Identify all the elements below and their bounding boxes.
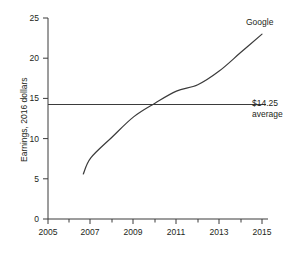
y-tick-label-5: 5 — [24, 175, 39, 184]
y-tick-label-20: 20 — [24, 54, 39, 63]
x-tick-label-2013: 2013 — [210, 228, 229, 237]
x-axis-ticks — [48, 219, 262, 224]
y-tick-label-25: 25 — [24, 14, 39, 23]
x-tick-label-2011: 2011 — [167, 228, 185, 237]
x-tick-label-2015: 2015 — [253, 228, 272, 237]
average-annotation: $14.25 average — [252, 98, 283, 121]
axes — [48, 18, 268, 219]
x-tick-label-2009: 2009 — [124, 228, 143, 237]
series-line-google-smooth — [62, 38, 262, 174]
average-caption-label: average — [252, 109, 283, 120]
chart-plot-area — [0, 0, 300, 254]
x-tick-label-2005: 2005 — [39, 228, 58, 237]
x-tick-label-2007: 2007 — [81, 228, 100, 237]
y-tick-label-0: 0 — [24, 215, 39, 224]
chart-container: 0 5 10 15 20 25 2005 2007 2009 2011 2013… — [0, 0, 300, 254]
y-axis-ticks — [43, 18, 48, 219]
y-axis-title: Earnings, 2016 dollars — [20, 77, 29, 162]
series-label-google: Google — [246, 17, 273, 28]
average-value-label: $14.25 — [252, 98, 283, 109]
